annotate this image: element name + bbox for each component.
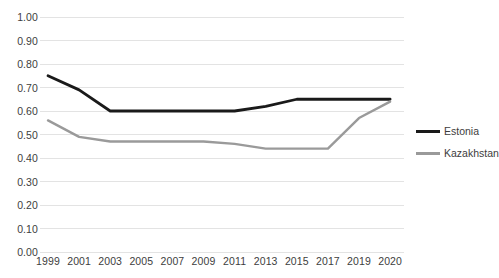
legend-item-kazakhstan[interactable]: Kazakhstan <box>416 142 498 164</box>
legend-label: Estonia <box>444 126 479 137</box>
series-line-kazakhstan <box>48 102 390 149</box>
series-line-estonia <box>48 76 390 111</box>
chart-legend: Estonia Kazakhstan <box>416 120 498 164</box>
legend-swatch-icon <box>416 152 440 155</box>
legend-item-estonia[interactable]: Estonia <box>416 120 498 142</box>
legend-label: Kazakhstan <box>444 148 499 159</box>
series-lines <box>48 76 390 149</box>
legend-swatch-icon <box>416 130 440 133</box>
gridlines <box>40 17 404 252</box>
